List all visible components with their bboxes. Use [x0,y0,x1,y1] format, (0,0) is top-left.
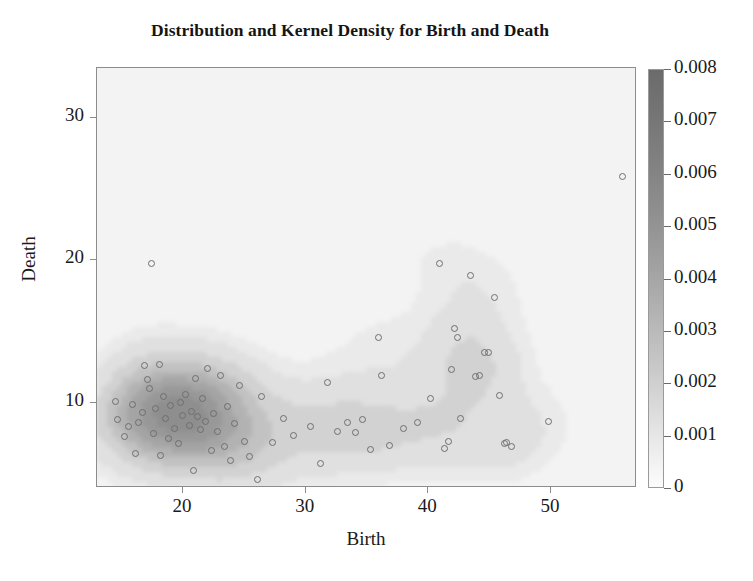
scatter-point [414,419,421,426]
x-tick-label: 30 [275,495,335,517]
scatter-point [254,476,261,483]
scatter-point [386,442,393,449]
colorbar [648,69,664,488]
scatter-point [217,372,224,379]
scatter-point [224,403,231,410]
y-tick-label: 30 [18,104,84,126]
scatter-point [160,393,167,400]
colorbar-tick-mark [664,279,671,280]
scatter-point [467,272,474,279]
x-tick-mark [305,487,306,493]
scatter-point [344,419,351,426]
scatter-point [359,416,366,423]
x-tick-label: 40 [397,495,457,517]
scatter-points-layer [97,68,635,486]
scatter-point [139,409,146,416]
scatter-point [334,428,341,435]
scatter-point [221,443,228,450]
scatter-point [375,334,382,341]
scatter-point [324,379,331,386]
colorbar-tick-mark [664,383,671,384]
colorbar-tick-label: 0.008 [674,56,717,78]
chart-title: Distribution and Kernel Density for Birt… [0,20,700,41]
scatter-point [204,365,211,372]
scatter-point [476,372,483,379]
scatter-point [441,445,448,452]
scatter-point [114,416,121,423]
colorbar-tick-label: 0 [674,475,684,497]
scatter-point [132,450,139,457]
scatter-point [135,419,142,426]
scatter-point [150,430,157,437]
y-axis-label: Death [18,199,40,319]
scatter-point [210,410,217,417]
colorbar-tick-mark [664,331,671,332]
scatter-point [156,361,163,368]
x-tick-label: 20 [152,495,212,517]
colorbar-tick-label: 0.003 [674,318,717,340]
colorbar-tick-mark [664,121,671,122]
scatter-point [280,415,287,422]
y-tick-label: 10 [18,389,84,411]
scatter-point [190,467,197,474]
colorbar-tick-label: 0.007 [674,108,717,130]
scatter-point [258,393,265,400]
scatter-point [202,418,209,425]
colorbar-tick-label: 0.004 [674,266,717,288]
scatter-point [208,447,215,454]
scatter-point [141,362,148,369]
scatter-point [619,173,626,180]
plot-area [96,67,636,487]
colorbar-tick-mark [664,226,671,227]
x-axis-label: Birth [96,528,636,550]
scatter-point [152,405,159,412]
scatter-point [194,413,201,420]
scatter-point [454,334,461,341]
scatter-point [121,433,128,440]
scatter-point [112,398,119,405]
scatter-point [508,443,515,450]
scatter-point [367,446,374,453]
scatter-point [400,425,407,432]
scatter-point [129,401,136,408]
scatter-point [352,429,359,436]
colorbar-tick-mark [664,174,671,175]
scatter-point [179,412,186,419]
scatter-point [496,392,503,399]
colorbar-tick-mark [664,69,671,70]
scatter-point [485,349,492,356]
scatter-point [148,260,155,267]
figure-canvas: Distribution and Kernel Density for Birt… [0,0,753,581]
scatter-point [177,399,184,406]
x-tick-mark [550,487,551,493]
colorbar-tick-label: 0.006 [674,161,717,183]
colorbar-tick-mark [664,436,671,437]
scatter-point [307,423,314,430]
scatter-point [378,372,385,379]
scatter-point [427,395,434,402]
scatter-point [236,382,243,389]
scatter-point [491,294,498,301]
y-tick-mark [90,402,96,403]
scatter-point [175,440,182,447]
y-tick-mark [90,259,96,260]
scatter-point [227,457,234,464]
scatter-point [246,453,253,460]
colorbar-tick-label: 0.001 [674,423,717,445]
scatter-point [146,385,153,392]
scatter-point [214,428,221,435]
scatter-point [290,432,297,439]
scatter-point [317,460,324,467]
y-tick-mark [90,117,96,118]
scatter-point [125,423,132,430]
scatter-point [197,426,204,433]
colorbar-tick-label: 0.002 [674,370,717,392]
scatter-point [171,425,178,432]
scatter-point [167,402,174,409]
scatter-point [157,452,164,459]
colorbar-tick-label: 0.005 [674,213,717,235]
scatter-point [199,395,206,402]
scatter-point [451,325,458,332]
scatter-point [445,438,452,445]
scatter-point [457,415,464,422]
